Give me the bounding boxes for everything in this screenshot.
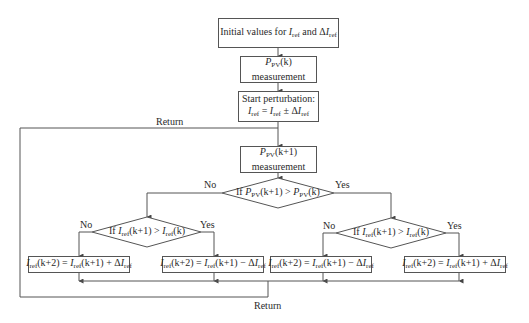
- decision-power-yes-label: Yes: [335, 179, 350, 191]
- decision-power-no-label: No: [204, 179, 216, 191]
- measure-k-line1: PPV(k): [265, 56, 292, 71]
- measure-k-box: PPV(k) measurement: [240, 56, 317, 83]
- measure-k1-line2: measurement: [252, 161, 305, 173]
- output-left-no-box: Iref(k+2) = Iref(k+1) + ΔIref: [28, 256, 130, 273]
- measure-k1-box: PPV(k+1) measurement: [240, 146, 317, 173]
- decision-left-yes-label: Yes: [200, 219, 215, 231]
- init-box: Initial values for Iref and ΔIref: [218, 18, 339, 48]
- measure-k-line2: measurement: [252, 71, 305, 83]
- decision-left-no-label: No: [80, 219, 92, 231]
- return-top-label: Return: [156, 116, 183, 128]
- perturb-box: Start perturbation: Iref = Iref ± ΔIref: [238, 91, 319, 122]
- measure-k1-line1: PPV(k+1): [260, 146, 297, 161]
- output-right-yes-box: Iref(k+2) = Iref(k+1) + ΔIref: [404, 256, 506, 273]
- decision-right-yes-label: Yes: [447, 220, 462, 232]
- perturb-line2: Iref = Iref ± ΔIref: [248, 105, 309, 120]
- decision-left-text: If Iref(k+1) > Iref(k): [109, 225, 185, 240]
- perturb-line1: Start perturbation:: [242, 93, 315, 105]
- decision-power-text: If PPV(k+1) > PPV(k): [236, 186, 320, 201]
- decision-right-no-label: No: [323, 220, 335, 232]
- output-left-yes-box: Iref(k+2) = Iref(k+1) − ΔIref: [162, 256, 264, 273]
- output-right-no-box: Iref(k+2) = Iref(k+1) − ΔIref: [270, 256, 372, 273]
- decision-right-text: If Iref(k+1) > Iref(k): [353, 226, 429, 241]
- return-bottom-label: Return: [254, 300, 281, 312]
- init-text: Initial values for Iref and ΔIref: [220, 26, 337, 41]
